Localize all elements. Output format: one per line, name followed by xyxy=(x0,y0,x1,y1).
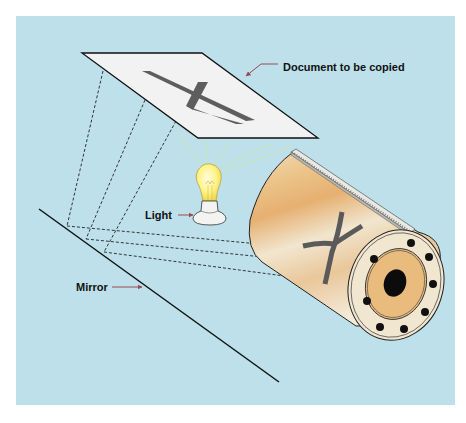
photocopier-diagram: Document to be copied Light Mirror xyxy=(0,0,466,423)
background-panel xyxy=(16,16,455,405)
label-light-text: Light xyxy=(145,209,172,221)
label-mirror-text: Mirror xyxy=(76,281,109,293)
label-document-text: Document to be copied xyxy=(283,61,405,73)
